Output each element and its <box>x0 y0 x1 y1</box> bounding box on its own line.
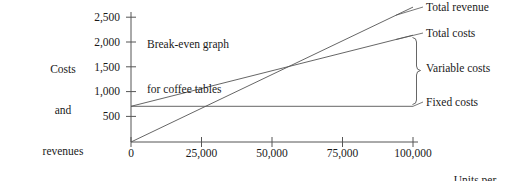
chart-title-line-1: Break-even graph <box>147 37 229 52</box>
series-label-total-costs: Total costs <box>426 27 475 41</box>
y-tick-label-500: 500 <box>68 110 120 124</box>
x-axis-title-line-1: Units per <box>443 174 507 181</box>
y-tick-label-1000: 1,000 <box>68 85 120 99</box>
series-label-fixed-costs: Fixed costs <box>426 96 478 110</box>
x-axis-title: Units per year <box>443 147 507 181</box>
leader-line-total-revenue <box>396 7 423 15</box>
y-tick-label-2000: 2,000 <box>68 36 120 50</box>
x-tick-label-25000: 25,000 <box>172 147 232 161</box>
x-tick-label-50000: 50,000 <box>242 147 302 161</box>
x-tick-label-0: 0 <box>101 147 161 161</box>
x-tick-label-75000: 75,000 <box>313 147 373 161</box>
series-label-total-revenue: Total revenue <box>426 1 489 15</box>
variable-costs-brace <box>413 38 421 105</box>
y-tick-label-1500: 1,500 <box>68 61 120 75</box>
chart-title: Break-even graph for coffee tables <box>147 7 229 127</box>
leader-line-total-costs <box>396 33 423 40</box>
x-tick-label-100000: 100,000 <box>383 147 443 161</box>
break-even-chart: Costs and revenues (£000) 2,500 2,000 1,… <box>0 0 509 181</box>
y-tick-label-2500: 2,500 <box>68 11 120 25</box>
series-label-variable-costs: Variable costs <box>426 62 490 76</box>
chart-title-line-2: for coffee tables <box>147 82 229 97</box>
